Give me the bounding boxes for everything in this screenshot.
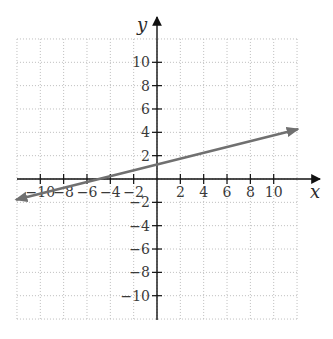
y-tick-label: 8 [141, 78, 150, 94]
y-tick-label: 2 [141, 148, 150, 164]
coordinate-plane-chart: −10−8−6−4−2246810−10−8−6−4−2246810 x y [0, 0, 333, 339]
x-tick-label: 6 [223, 184, 232, 200]
y-tick-label: 10 [132, 54, 150, 70]
y-tick-label: −2 [129, 194, 150, 210]
y-tick-label: 4 [141, 124, 150, 140]
x-tick-label: 4 [199, 184, 208, 200]
y-tick-label: 6 [141, 101, 150, 117]
x-tick-label: −4 [100, 184, 121, 200]
y-tick-label: −4 [129, 218, 150, 234]
x-tick-label: 10 [265, 184, 283, 200]
y-axis-label: y [136, 14, 148, 35]
x-axis-label: x [310, 181, 320, 202]
y-tick-label: −10 [120, 288, 150, 304]
x-tick-label: −6 [77, 184, 98, 200]
y-tick-label: −6 [129, 241, 150, 257]
x-tick-label: 2 [176, 184, 185, 200]
x-tick-label: 8 [246, 184, 255, 200]
y-tick-label: −8 [129, 264, 150, 280]
